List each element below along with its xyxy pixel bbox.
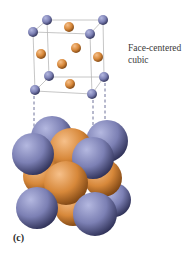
- structure-label-line2: cubic: [128, 54, 181, 66]
- structure-label-line1: Face-centered: [128, 42, 181, 54]
- space-filling-model: [12, 116, 131, 236]
- panel-label: (c): [13, 232, 24, 243]
- structure-label: Face-centered cubic: [128, 42, 181, 66]
- fcc-diagram: [0, 0, 196, 254]
